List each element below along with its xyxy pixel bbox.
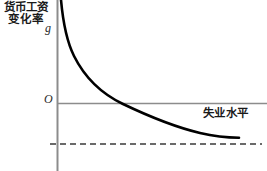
y-axis-title: 货币工资 变化率 [2, 1, 50, 26]
y-axis-title-line-2: 变化率 [2, 13, 50, 25]
phillips-curve-figure: 货币工资 变化率 g O 失业水平 [0, 0, 267, 171]
origin-label: O [44, 93, 53, 106]
x-axis-title: 失业水平 [203, 107, 249, 119]
curve-label-g: g [45, 22, 51, 35]
